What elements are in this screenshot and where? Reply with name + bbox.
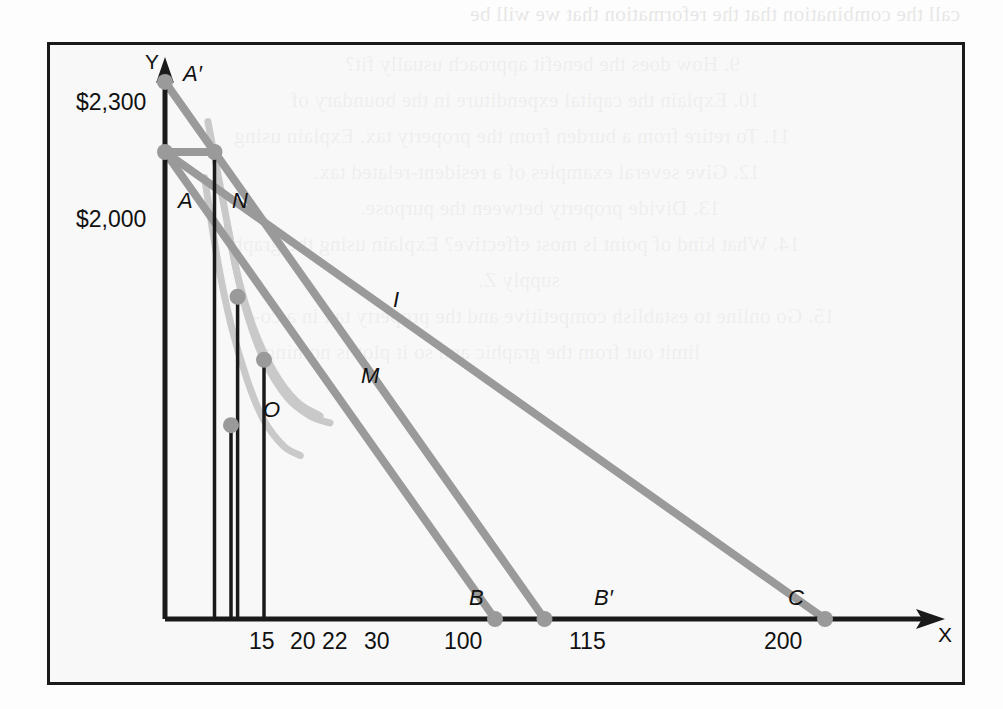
x-tick-label-115: 115 [569, 628, 606, 655]
point-marker-A [157, 144, 173, 160]
x-tick-label-100: 100 [444, 628, 482, 655]
bleed-line: call the combination that the reformatio… [470, 2, 960, 27]
y-axis-label: Y [145, 50, 159, 74]
budget-line-Aprime-Bprime [165, 82, 545, 619]
point-label-M: M [361, 363, 379, 389]
x-tick-label-30: 30 [364, 628, 390, 655]
point-label-A-prime: A′ [183, 61, 202, 87]
point-marker-B-prime [537, 611, 553, 627]
point-label-N: N [232, 188, 248, 214]
point-label-C: C [788, 585, 804, 611]
point-marker-B [487, 611, 503, 627]
figure-border-box: Y X $2,300 $2,000 15 20 22 30 100 115 20… [47, 42, 965, 685]
point-marker-N [207, 144, 223, 160]
x-tick-label-22: 22 [322, 628, 348, 655]
graph-canvas [50, 45, 962, 682]
axes-group [156, 57, 945, 629]
x-tick-label-20: 20 [290, 628, 316, 655]
point-marker-O [223, 417, 239, 433]
drop-lines-group [215, 152, 265, 619]
y-value-label-2300: $2,300 [76, 89, 146, 116]
point-marker-M [256, 352, 272, 368]
point-label-A: A [178, 188, 193, 214]
point-label-B: B [469, 585, 484, 611]
scanned-page: call the combination that the reformatio… [0, 0, 1003, 709]
point-label-I: I [393, 287, 399, 313]
point-label-O: O [263, 397, 280, 423]
point-marker-A-prime [157, 74, 173, 90]
x-axis-label: X [938, 623, 952, 647]
point-marker-I [230, 289, 246, 305]
point-label-B-prime: B′ [594, 585, 613, 611]
y-value-label-2000: $2,000 [76, 206, 146, 233]
x-tick-label-15: 15 [249, 628, 275, 655]
x-tick-label-200: 200 [764, 628, 802, 655]
point-marker-C [817, 611, 833, 627]
